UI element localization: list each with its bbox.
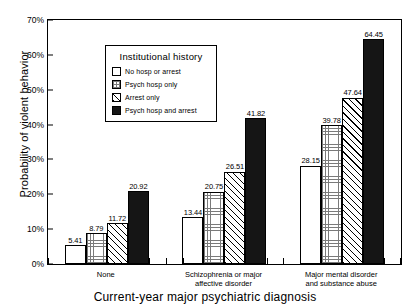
bar: 5.41 (65, 245, 86, 264)
bar-value-label: 28.15 (302, 156, 320, 165)
x-axis-category-label: Schizophrenia or major affective disorde… (164, 270, 284, 288)
chart-figure: Probability of violent behavior 0%10%20%… (0, 0, 410, 308)
bar-value-label: 39.78 (323, 116, 341, 125)
legend-item: Psych hosp and arrest (112, 106, 210, 115)
legend-items: No hosp or arrestPsych hosp onlyArrest o… (112, 67, 210, 115)
bar-value-label: 13.44 (184, 208, 202, 217)
bar-value-label: 47.64 (344, 88, 362, 97)
bar-value-label: 11.72 (108, 214, 126, 223)
x-axis-tick-mark (267, 258, 268, 264)
legend: Institutional history No hosp or arrestP… (105, 45, 217, 122)
y-axis-tick-label: 0% (32, 259, 48, 269)
legend-swatch-hatch (112, 93, 121, 102)
bar: 41.82 (245, 118, 266, 264)
x-axis-tick-mark (283, 258, 284, 264)
bar-value-label: 8.79 (89, 224, 103, 233)
bar: 28.15 (300, 166, 321, 264)
legend-item-label: No hosp or arrest (125, 68, 181, 75)
legend-title: Institutional history (112, 51, 210, 62)
bar: 26.51 (224, 172, 245, 264)
legend-item-label: Psych hosp only (125, 81, 177, 88)
x-axis-tick-mark (300, 258, 301, 264)
bar: 64.45 (363, 39, 384, 264)
y-axis-tick-label: 70% (27, 15, 48, 25)
legend-item: No hosp or arrest (112, 67, 210, 76)
legend-item: Arrest only (112, 93, 210, 102)
x-axis-tick-mark (65, 258, 66, 264)
x-axis-category-label: Major mental disorder and substance abus… (281, 270, 401, 288)
x-axis-tick-mark (384, 258, 385, 264)
bar: 39.78 (321, 125, 342, 264)
x-axis-tick-mark (400, 258, 401, 264)
y-axis-tick-label: 60% (27, 50, 48, 60)
bar-value-label: 5.41 (68, 236, 82, 245)
bar-value-label: 20.75 (205, 182, 223, 191)
legend-item-label: Arrest only (125, 94, 160, 101)
bar: 11.72 (107, 223, 128, 264)
bar-value-label: 64.45 (365, 30, 383, 39)
legend-swatch-solid (112, 106, 121, 115)
bar: 20.92 (128, 191, 149, 264)
plot-area: 0%10%20%30%40%50%60%70% 5.418.7911.7220.… (47, 19, 402, 265)
bar-value-label: 20.92 (129, 182, 147, 191)
bar-value-label: 26.51 (226, 162, 244, 171)
y-axis-tick-label: 30% (27, 154, 48, 164)
y-axis-tick-label: 40% (27, 120, 48, 130)
x-axis-tick-mark (48, 258, 49, 264)
x-axis-title: Current-year major psychiatric diagnosis (0, 290, 410, 304)
bar: 13.44 (182, 217, 203, 264)
x-axis-tick-mark (166, 258, 167, 264)
legend-item: Psych hosp only (112, 80, 210, 89)
y-axis-tick-label: 50% (27, 85, 48, 95)
x-axis-tick-mark (183, 258, 184, 264)
x-axis-tick-mark (149, 258, 150, 264)
x-axis-category-label: None (46, 270, 166, 279)
legend-swatch-grid (112, 80, 121, 89)
bar: 47.64 (342, 98, 363, 264)
bar: 20.75 (203, 192, 224, 264)
y-axis-tick-label: 10% (27, 224, 48, 234)
y-axis-tick-label: 20% (27, 189, 48, 199)
legend-item-label: Psych hosp and arrest (125, 107, 197, 114)
bar-group: 28.1539.7847.6464.45 (283, 20, 401, 264)
legend-swatch-blank (112, 67, 121, 76)
bar-series-container: 5.418.7911.7220.9213.4420.7526.5141.8228… (48, 20, 401, 264)
bar-value-label: 41.82 (247, 109, 265, 118)
bar: 8.79 (86, 233, 107, 264)
